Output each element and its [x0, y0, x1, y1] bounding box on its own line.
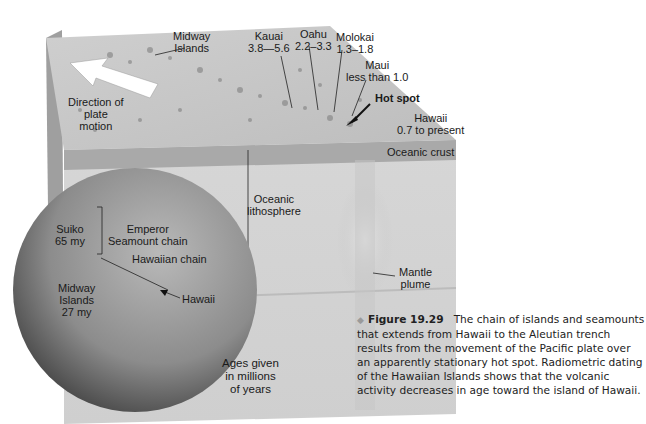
label-hot-spot: Hot spot	[375, 92, 420, 104]
figure-number: Figure 19.29	[368, 313, 444, 325]
ages-note: Ages given in millions of years	[222, 357, 279, 396]
globe	[13, 168, 257, 412]
label-mantle-plume: Mantle plume	[399, 266, 432, 290]
label-molokai: Molokai 1.3–1.8	[336, 31, 374, 55]
label-midway-islands-globe: Midway Islands 27 my	[58, 282, 95, 318]
label-midway-islands-top: Midway Islands	[173, 30, 210, 54]
label-hawaii-top: Hawaii 0.7 to present	[397, 112, 464, 136]
label-hawaii-globe: Hawaii	[182, 293, 215, 305]
figure-caption: ◆Figure 19.29 The chain of islands and s…	[357, 312, 646, 397]
label-direction-of-plate-motion: Direction of plate motion	[68, 96, 124, 132]
bullet-diamond-icon: ◆	[357, 315, 364, 325]
label-maui: Maui less than 1.0	[346, 59, 408, 83]
caption-text: The chain of islands and seamounts that …	[357, 313, 644, 396]
label-kauai: Kauai 3.8—5.6	[248, 30, 290, 54]
label-emperor-seamount-chain: Emperor Seamount chain	[108, 223, 188, 247]
label-oahu: Oahu 2.2–3.3	[295, 28, 332, 52]
label-hawaiian-chain: Hawaiian chain	[132, 253, 207, 265]
label-oceanic-crust: Oceanic crust	[387, 146, 454, 158]
label-suiko: Suiko 65 my	[55, 223, 85, 247]
label-oceanic-lithosphere: Oceanic lithosphere	[247, 193, 301, 217]
